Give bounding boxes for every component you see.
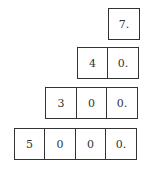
row-ones: 7. (108, 8, 140, 40)
row-thousands: 5 0 0 0. (14, 128, 138, 160)
digit-box: 0. (107, 47, 139, 79)
digit-box: 0. (106, 87, 138, 119)
digit-box: 3 (45, 87, 77, 119)
digit-box: 5 (14, 128, 46, 160)
digit-box: 7. (108, 8, 140, 40)
row-hundreds: 3 0 0. (45, 87, 138, 119)
digit-box: 0 (44, 128, 76, 160)
digit-box: 0 (76, 87, 108, 119)
digit-box: 4 (77, 47, 109, 79)
row-tens: 4 0. (77, 47, 140, 79)
digit-box: 0 (75, 128, 107, 160)
digit-box: 0. (105, 128, 137, 160)
